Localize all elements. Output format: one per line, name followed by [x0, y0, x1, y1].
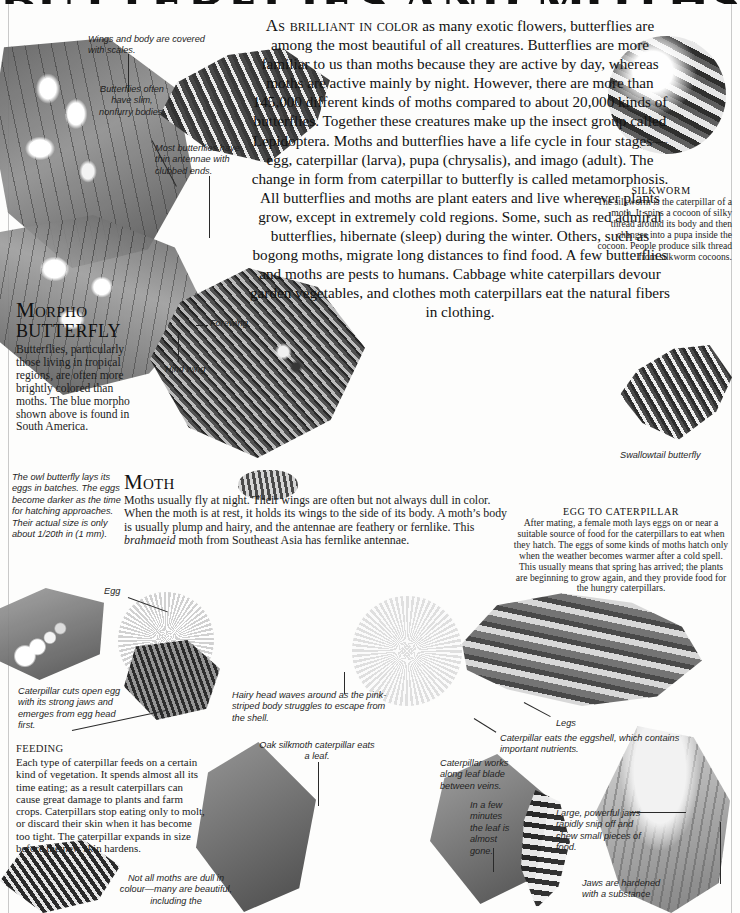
moth-body: Moths usually fly at night. Their wings … — [124, 494, 514, 547]
page-title: BUTTERFLIES AND MOTHS — [0, 0, 740, 4]
silkworm-heading: SILKWORM — [590, 185, 732, 196]
leader-line-in-a-few-minutes — [493, 848, 494, 872]
egg-closeup-image — [118, 592, 214, 688]
intro-paragraph: As brilliant in color as many exotic flo… — [250, 16, 670, 322]
page-rule-left — [8, 0, 9, 913]
label-leaf-blade: Caterpillar works along leaf blade betwe… — [440, 758, 526, 792]
label-oak-silkmoth: Oak silkmoth caterpillar eats a leaf. — [258, 740, 376, 763]
egg-to-caterpillar-body: After mating, a female moth lays eggs on… — [512, 518, 730, 594]
silkworm-body: The silkworm is the caterpillar of a mot… — [590, 197, 732, 262]
owl-butterfly-eggs-image — [0, 588, 104, 680]
silkworm-section: SILKWORM The silkworm is the caterpillar… — [590, 185, 732, 262]
feeding-body: Each type of caterpillar feeds on a cert… — [16, 756, 206, 854]
label-hind-wing: Hind wing — [165, 364, 205, 375]
hatching-caterpillar-head-image — [124, 640, 220, 720]
leader-line-hairy-head — [344, 672, 345, 694]
label-slim-bodies: Butterflies often have slim, nonfurry bo… — [96, 84, 168, 118]
leader-line-jaws-snip — [630, 812, 686, 813]
egg-to-caterpillar-heading: EGG TO CATERPILLAR — [512, 506, 730, 517]
label-wings-scales: Wings and body are covered with scales. — [88, 34, 216, 57]
label-in-a-few-minutes: In a few minutes the leaf is almost gone… — [470, 800, 510, 857]
moth-section: Moth Moths usually fly at night. Their w… — [124, 472, 514, 547]
feeding-heading: FEEDING — [16, 744, 206, 755]
label-egg: Egg — [104, 586, 120, 597]
label-swallowtail: Swallowtail butterfly — [620, 450, 701, 461]
encyclopedia-page: BUTTERFLIES AND MOTHS As brilliant in co… — [0, 0, 740, 913]
morpho-section: Morpho BUTTERFLY Butterflies, particular… — [16, 300, 146, 434]
moth-body-part1: Moths usually fly at night. Their wings … — [124, 493, 507, 534]
morpho-heading-line1: Morpho — [16, 300, 146, 320]
leader-line-hind-wing — [178, 334, 179, 362]
label-antennae: Most butterflies have thin antennae with… — [155, 143, 251, 177]
moth-heading: Moth — [124, 472, 514, 492]
page-rule-right — [731, 0, 732, 913]
leader-line-legs — [524, 702, 551, 717]
label-owl-butterfly-eggs: The owl butterfly lays its eggs in batch… — [12, 472, 122, 540]
leader-line-antennae — [209, 176, 210, 238]
label-jaws-snip: Large, powerful jaws rapidly snip off an… — [556, 808, 654, 854]
label-not-all-moths: Not all moths are dull in colour—many ar… — [116, 873, 236, 907]
morpho-heading-line2: BUTTERFLY — [16, 321, 146, 341]
leader-line-forewing — [196, 325, 208, 326]
label-hairy-head: Hairy head waves around as the pink-stri… — [232, 690, 392, 724]
label-eats-eggshell: Caterpillar eats the eggshell, which con… — [500, 733, 680, 756]
label-legs: Legs — [556, 718, 576, 729]
leader-line-jaws-hardened — [720, 822, 721, 884]
morpho-body: Butterflies, particularly those living i… — [16, 344, 146, 434]
caterpillar-eating-eggshell-image — [452, 586, 702, 706]
egg-to-caterpillar-section: EGG TO CATERPILLAR After mating, a femal… — [512, 506, 730, 594]
intro-body: as many exotic flowers, butterflies are … — [250, 17, 670, 320]
swallowtail-butterfly-image — [620, 345, 732, 440]
leader-line-eats-eggshell — [474, 718, 497, 733]
leader-line-egg — [128, 597, 168, 612]
leader-line-oak-silkmoth — [318, 762, 319, 806]
intro-lead-in: As brilliant in color — [266, 16, 419, 35]
label-caterpillar-cuts: Caterpillar cuts open egg with its stron… — [18, 686, 122, 732]
moth-body-italic: brahmaeid — [124, 533, 176, 547]
moth-body-part2: moth from Southeast Asia has fernlike an… — [176, 533, 410, 547]
feeding-section: FEEDING Each type of caterpillar feeds o… — [16, 744, 206, 854]
label-jaws-hardened: Jaws are hardened with a substance — [582, 878, 668, 901]
label-forewing: Forewing — [210, 318, 248, 329]
